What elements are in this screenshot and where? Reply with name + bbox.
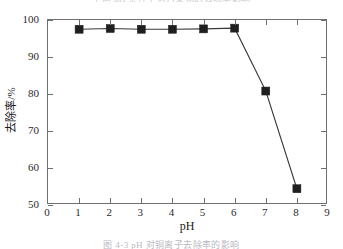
y-axis-tick-right: [321, 94, 326, 95]
x-axis-tick-top: [110, 20, 111, 25]
x-axis-tick: [297, 198, 298, 203]
y-axis-tick-right: [321, 20, 326, 21]
plot-area: [47, 19, 327, 204]
data-point-marker: [200, 25, 208, 33]
y-axis-tick-label-group: 5060708090100: [0, 19, 43, 204]
x-axis-tick: [172, 198, 173, 203]
series-marker-group: [75, 24, 301, 193]
y-axis-tick-right: [321, 57, 326, 58]
x-axis-tick: [235, 198, 236, 203]
figure-caption-bottom: 图 4-3 pH 对铜离子去除率的影响: [0, 240, 343, 249]
y-axis-tick: [48, 94, 53, 95]
x-axis-tick-label: 6: [224, 207, 244, 218]
x-axis-tick-label: 0: [37, 207, 57, 218]
x-axis-tick-top: [141, 20, 142, 25]
x-axis-tick-label: 1: [68, 207, 88, 218]
y-axis-tick: [48, 20, 53, 21]
series-line: [79, 28, 297, 189]
data-point-marker: [137, 25, 145, 33]
data-point-marker: [262, 87, 270, 95]
x-axis-tick-label: 5: [193, 207, 213, 218]
x-axis-tick-label: 8: [286, 207, 306, 218]
x-axis-tick: [266, 198, 267, 203]
x-axis-tick: [141, 198, 142, 203]
x-axis-tick: [204, 198, 205, 203]
x-axis-tick-label: 9: [317, 207, 337, 218]
figure-container: 不同 pH 条件下对污染物的去除率影响 去除率/% 5060708090100 …: [0, 0, 343, 249]
x-axis-tick-label: 7: [255, 207, 275, 218]
data-point-marker: [106, 25, 114, 33]
y-axis-tick-right: [321, 168, 326, 169]
figure-caption-top: 不同 pH 条件下对污染物的去除率影响: [0, 0, 343, 2]
x-axis-tick-top: [235, 20, 236, 25]
data-series-svg: [48, 20, 328, 205]
y-axis-tick: [48, 168, 53, 169]
x-axis-tick: [110, 198, 111, 203]
x-axis-tick-label: 4: [161, 207, 181, 218]
y-axis-tick: [48, 57, 53, 58]
x-axis-tick-top: [297, 20, 298, 25]
y-axis-tick: [48, 131, 53, 132]
data-point-marker: [231, 24, 239, 32]
x-axis-tick-label-group: 0123456789: [47, 204, 327, 220]
x-axis-tick-top: [266, 20, 267, 25]
x-axis-tick-top: [79, 20, 80, 25]
y-axis-tick-label: 80: [9, 88, 39, 99]
x-axis-tick: [79, 198, 80, 203]
data-point-marker: [293, 185, 301, 193]
y-axis-tick-label: 50: [9, 199, 39, 210]
x-axis-tick-label: 3: [130, 207, 150, 218]
y-axis-tick-label: 90: [9, 51, 39, 62]
data-point-marker: [168, 25, 176, 33]
y-axis-tick-label: 100: [9, 14, 39, 25]
x-axis-tick-label: 2: [99, 207, 119, 218]
data-point-marker: [75, 25, 83, 33]
y-axis-tick-label: 60: [9, 162, 39, 173]
y-axis-tick-label: 70: [9, 125, 39, 136]
x-axis-title: pH: [47, 219, 327, 233]
x-axis-tick-top: [204, 20, 205, 25]
y-axis-tick-right: [321, 131, 326, 132]
x-axis-tick-top: [172, 20, 173, 25]
